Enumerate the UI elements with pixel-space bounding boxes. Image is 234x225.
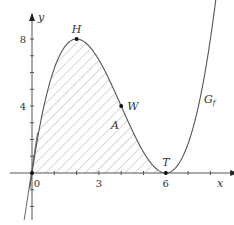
area-label: A [110,119,119,132]
point-t [164,171,168,175]
y-tick-label: 8 [20,34,26,45]
y-tick-label: 4 [20,101,26,112]
point-h [75,37,79,41]
point-label-h: H [71,23,82,36]
point-w [119,104,123,108]
x-tick-label: 0 [34,178,40,189]
chart: 03648 HWT x y A Gf [0,0,234,225]
curve-label: Gf [204,93,217,107]
origin-point [30,171,34,175]
y-axis-label: y [37,11,45,24]
point-label-t: T [162,156,171,169]
x-tick-label: 6 [163,178,169,189]
x-tick-label: 3 [96,178,102,189]
x-axis-label: x [217,177,224,190]
point-label-w: W [127,100,140,113]
